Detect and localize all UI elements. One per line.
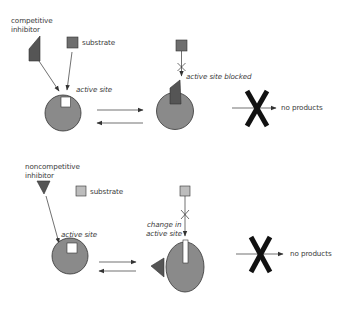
competitive-inhibitor-label-line2: inhibitor bbox=[11, 26, 40, 35]
change-in-label-line2: active site bbox=[146, 230, 182, 239]
noncompetitive-inhibitor-shape bbox=[37, 181, 50, 194]
substrate-square-light bbox=[76, 186, 86, 196]
no-products-label-2: no products bbox=[290, 250, 332, 259]
blocked-substrate-square bbox=[176, 40, 187, 51]
altered-active-site bbox=[183, 240, 188, 263]
noncompetitive-inhibitor-label-line2: inhibitor bbox=[25, 172, 54, 181]
bound-noncomp-inhibitor bbox=[151, 258, 164, 277]
big-x-icon-2 bbox=[251, 237, 270, 272]
substrate-label: substrate bbox=[82, 39, 115, 48]
big-x-icon bbox=[247, 91, 267, 126]
inhibitor-arrow bbox=[39, 61, 59, 91]
active-site-blocked-label: active site blocked bbox=[186, 73, 252, 82]
no-products-label: no products bbox=[281, 104, 323, 113]
active-site-notch-2 bbox=[67, 243, 77, 253]
active-site-notch bbox=[61, 97, 71, 107]
bound-inhibitor-shape bbox=[170, 80, 181, 104]
enzyme-inhibition-diagram bbox=[0, 0, 346, 310]
substrate-square bbox=[67, 37, 78, 48]
substrate-label-2: substrate bbox=[90, 188, 123, 197]
active-site-label: active site bbox=[76, 86, 112, 95]
noncomp-inhibitor-arrow bbox=[46, 196, 59, 243]
competitive-inhibitor-shape bbox=[29, 36, 40, 61]
blocked-light-substrate bbox=[180, 186, 190, 196]
active-site-label-2: active site bbox=[61, 231, 97, 240]
competitive-panel bbox=[29, 36, 276, 131]
substrate-arrow bbox=[67, 52, 72, 90]
